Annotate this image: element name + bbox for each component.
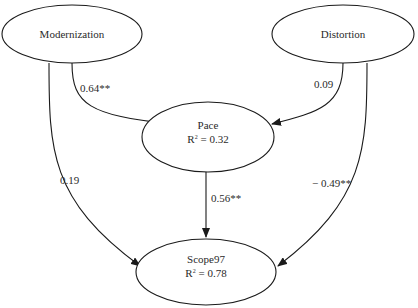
coef-modernization-pace: 0.64** xyxy=(80,82,110,94)
path-diagram: Modernization Distortion Pace R2 = 0.32 … xyxy=(0,0,418,308)
node-label: Modernization xyxy=(40,28,105,40)
edge-distortion-pace xyxy=(272,63,343,124)
node-scope97: Scope97 R2 = 0.78 xyxy=(136,239,276,305)
coef-pace-scope97: 0.56** xyxy=(211,192,241,204)
coef-distortion-scope97: − 0.49** xyxy=(312,177,351,189)
node-label: Pace xyxy=(198,119,219,131)
node-label: Distortion xyxy=(321,28,366,40)
node-modernization: Modernization xyxy=(2,5,142,63)
r-squared: R2 = 0.32 xyxy=(187,133,228,145)
node-label: Scope97 xyxy=(187,253,225,265)
coef-distortion-pace: 0.09 xyxy=(314,78,334,90)
edge-distortion-scope97 xyxy=(278,63,367,266)
node-pace: Pace R2 = 0.32 xyxy=(142,102,274,172)
r-squared: R2 = 0.78 xyxy=(185,267,227,279)
node-distortion: Distortion xyxy=(272,5,414,63)
coef-modernization-scope97: 0.19 xyxy=(60,174,80,186)
